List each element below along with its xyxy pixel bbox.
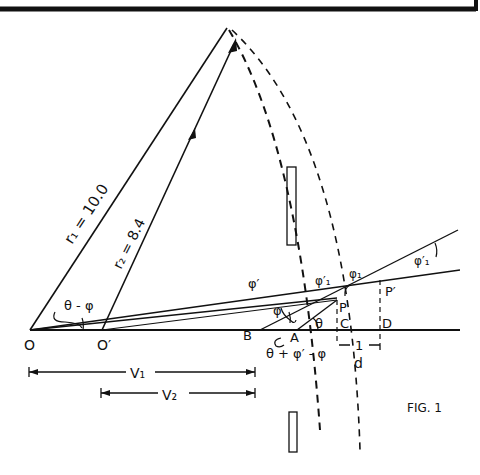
label-theta-minus-phi: θ - φ [64, 298, 94, 313]
label-P: P [339, 300, 347, 315]
label-B: B [243, 328, 252, 343]
slit-lower [289, 412, 297, 452]
optics-diagram: r₁ = 10.0 r₂ = 8.4 θ - φ O O′ B A C D P … [0, 0, 480, 475]
angle-arc-phi [289, 312, 290, 323]
ray-r1 [30, 28, 227, 330]
label-C: C [340, 316, 349, 331]
label-O: O [24, 337, 35, 353]
dimension-V2 [101, 388, 255, 398]
label-V2: V₂ [162, 387, 177, 403]
label-D: D [382, 316, 392, 331]
arrow-head-r2-mid [188, 128, 196, 140]
label-V1: V₁ [130, 365, 145, 381]
label-one: 1 [355, 338, 363, 353]
label-angle-expr: θ + φ′ - φ [266, 346, 326, 361]
arrow-head-r2-top [228, 38, 237, 53]
ray-r2 [102, 44, 234, 330]
dashed-arc-inner [229, 30, 320, 430]
label-phi-1: φ₁ [349, 267, 362, 281]
label-P-prime: P′ [385, 284, 396, 299]
label-A: A [290, 330, 299, 345]
angle-arc-phi-prime-right [435, 243, 437, 257]
ray-O-Pprime [30, 270, 460, 330]
top-frame [0, 0, 476, 11]
figure-caption: FIG. 1 [407, 401, 442, 415]
label-phi-prime-right: φ′₁ [414, 254, 430, 268]
label-d: d [354, 355, 363, 371]
label-theta: θ [315, 316, 323, 331]
label-phi: φ [273, 303, 282, 318]
label-phi-prime-left: φ′ [248, 276, 260, 291]
label-O-prime: O′ [97, 337, 111, 353]
label-phi-prime-1: φ′₁ [315, 274, 331, 288]
label-r1: r₁ = 10.0 [60, 181, 112, 248]
